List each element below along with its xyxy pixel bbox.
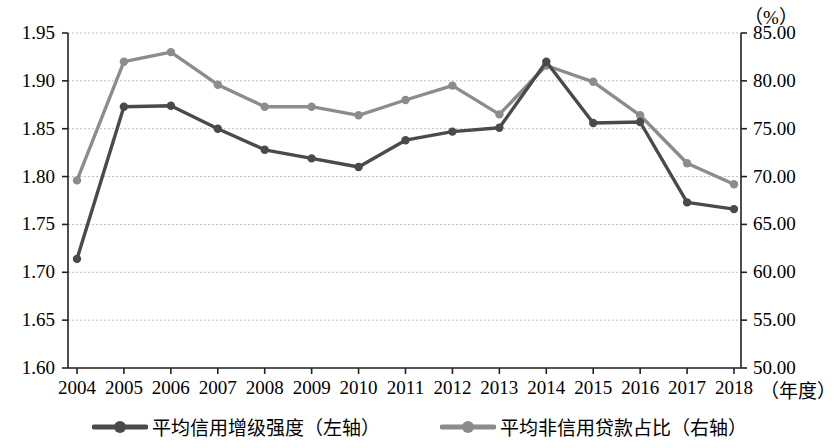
chart-container: 1.601.651.701.751.801.851.901.95 50.0055… [0, 0, 838, 448]
legend-item[interactable]: 平均非信用贷款占比（右轴） [440, 413, 747, 440]
axis-lines [68, 33, 741, 368]
data-point-marker [120, 58, 128, 66]
y-axis-right-tick-label: 55.00 [753, 310, 796, 329]
y-axis-right-tick-label: 50.00 [753, 358, 796, 377]
y-axis-right-tick-label: 65.00 [753, 214, 796, 233]
data-point-marker [448, 81, 456, 89]
data-point-marker [448, 127, 456, 135]
chart-legend: 平均信用增级强度（左轴）平均非信用贷款占比（右轴） [0, 405, 838, 448]
right-axis-unit-label: （%） [744, 2, 798, 29]
legend-label: 平均信用增级强度（左轴） [152, 413, 380, 440]
y-axis-right-tick-label: 60.00 [753, 262, 796, 281]
axis-ticks [62, 33, 747, 374]
data-point-marker [401, 136, 409, 144]
x-axis-tick-label: 2018 [704, 378, 764, 397]
legend-marker-icon [92, 418, 148, 436]
data-point-marker [683, 159, 691, 167]
data-point-marker [261, 103, 269, 111]
data-point-marker [120, 103, 128, 111]
data-point-marker [495, 124, 503, 132]
data-point-marker [307, 103, 315, 111]
legend-marker-icon [440, 418, 496, 436]
data-point-marker [542, 58, 550, 66]
data-series-layer [73, 48, 738, 263]
legend-item[interactable]: 平均信用增级强度（左轴） [92, 413, 380, 440]
data-point-marker [730, 180, 738, 188]
y-axis-left-tick-label: 1.95 [0, 23, 55, 42]
data-point-marker [730, 205, 738, 213]
data-point-marker [73, 176, 81, 184]
y-axis-left-tick-label: 1.90 [0, 71, 55, 90]
data-point-marker [589, 119, 597, 127]
y-axis-left-tick-label: 1.60 [0, 358, 55, 377]
y-axis-left-tick-label: 1.80 [0, 167, 55, 186]
gridlines [68, 33, 741, 368]
y-axis-left-tick-label: 1.65 [0, 310, 55, 329]
data-point-marker [683, 198, 691, 206]
data-point-marker [307, 154, 315, 162]
data-point-marker [636, 118, 644, 126]
y-axis-left-tick-label: 1.70 [0, 262, 55, 281]
data-point-marker [589, 78, 597, 86]
data-point-marker [354, 111, 362, 119]
data-point-marker [261, 146, 269, 154]
data-point-marker [214, 81, 222, 89]
data-point-marker [167, 48, 175, 56]
y-axis-right-tick-label: 80.00 [753, 71, 796, 90]
data-point-marker [73, 255, 81, 263]
y-axis-left-tick-label: 1.75 [0, 214, 55, 233]
data-point-marker [167, 102, 175, 110]
data-point-marker [354, 163, 362, 171]
y-axis-left-tick-label: 1.85 [0, 119, 55, 138]
y-axis-right-tick-label: 75.00 [753, 119, 796, 138]
y-axis-right-tick-label: 70.00 [753, 167, 796, 186]
series-line [77, 62, 734, 259]
x-axis-unit-label: （年度） [760, 376, 836, 403]
legend-label: 平均非信用贷款占比（右轴） [500, 413, 747, 440]
series-line [77, 52, 734, 184]
data-point-marker [401, 96, 409, 104]
data-point-marker [214, 125, 222, 133]
data-point-marker [495, 110, 503, 118]
